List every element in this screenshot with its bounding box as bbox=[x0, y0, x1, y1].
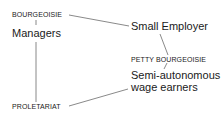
edge-bourgeoisie-small-employer bbox=[69, 15, 129, 26]
edge-small-employer-petty-bourgeoisie bbox=[160, 34, 168, 55]
node-semi-autonomous-line1: Semi-autonomous bbox=[131, 70, 220, 81]
class-structure-diagram: BOURGEOISIE Managers PROLETARIAT Small E… bbox=[0, 0, 222, 122]
node-semi-autonomous-line2: wage earners bbox=[131, 82, 198, 93]
node-proletariat: PROLETARIAT bbox=[12, 103, 61, 110]
node-bourgeoisie: BOURGEOISIE bbox=[12, 11, 62, 18]
node-small-employer: Small Employer bbox=[131, 21, 208, 32]
node-managers: Managers bbox=[12, 28, 61, 39]
node-petty-bourgeoisie: PETTY BOURGEOISIE bbox=[131, 56, 206, 63]
edge-semi-autonomous-proletariat bbox=[69, 89, 128, 106]
